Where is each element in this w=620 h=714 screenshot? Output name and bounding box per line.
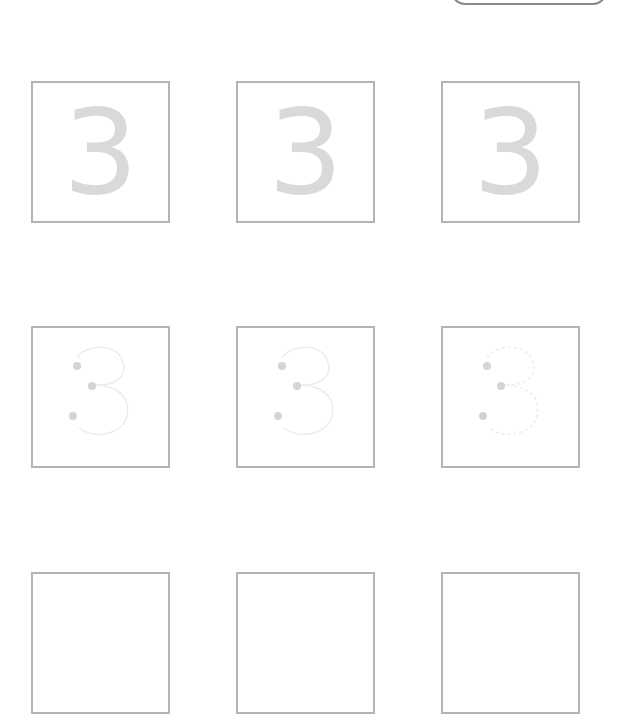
trace-digit-icon [238,328,373,466]
start-dot-icon [293,382,301,390]
trace-digit-dotted-icon [443,328,578,466]
digit-box-solid-2: 3 [236,81,375,223]
start-dot-icon [88,382,96,390]
solid-digit: 3 [33,83,168,221]
start-dot-icon [73,362,81,370]
digit-box-solid-1: 3 [31,81,170,223]
start-dot-icon [479,412,487,420]
digit-box-trace-1[interactable] [31,326,170,468]
top-button[interactable] [451,0,607,5]
start-dot-icon [483,362,491,370]
solid-digit: 3 [443,83,578,221]
digit-box-trace-2[interactable] [236,326,375,468]
start-dot-icon [497,382,505,390]
start-dot-icon [278,362,286,370]
practice-box-3[interactable] [441,572,580,714]
solid-digit: 3 [238,83,373,221]
digit-box-solid-3: 3 [441,81,580,223]
trace-digit-icon [33,328,168,466]
digit-box-trace-3[interactable] [441,326,580,468]
practice-box-1[interactable] [31,572,170,714]
practice-box-2[interactable] [236,572,375,714]
start-dot-icon [274,412,282,420]
start-dot-icon [69,412,77,420]
